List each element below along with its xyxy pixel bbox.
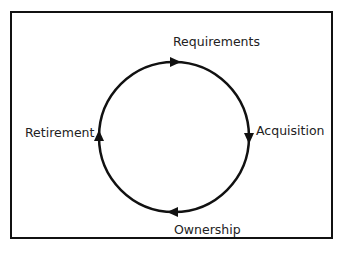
stage-retirement: Retirement xyxy=(25,125,94,140)
stage-requirements: Requirements xyxy=(173,34,260,49)
arrow-down-icon xyxy=(244,133,254,144)
cycle-ring xyxy=(99,62,249,212)
stage-acquisition: Acquisition xyxy=(256,123,324,138)
arrow-right-icon xyxy=(170,57,181,67)
stage-ownership: Ownership xyxy=(174,222,241,237)
arrow-up-icon xyxy=(94,130,104,141)
arrow-left-icon xyxy=(167,207,178,217)
